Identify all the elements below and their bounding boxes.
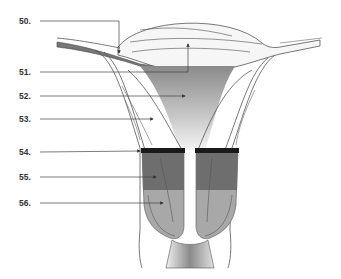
vaginal-canal [166, 240, 214, 268]
label-53: 53. [19, 114, 31, 124]
label-55: 55. [19, 172, 31, 182]
uterine-cavity [140, 66, 235, 150]
label-51: 51. [19, 67, 31, 77]
label-56: 56. [19, 198, 31, 208]
label-54: 54. [19, 147, 31, 157]
cervix-right-lobe [195, 148, 239, 239]
fundus [118, 23, 322, 72]
uterus-diagram [0, 0, 341, 279]
cervix-left-lobe [141, 148, 185, 239]
label-52: 52. [19, 91, 31, 101]
label-50: 50. [19, 16, 31, 26]
